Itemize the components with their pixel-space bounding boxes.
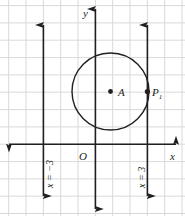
line-x-equals-3-label: x = 3 <box>136 167 147 189</box>
point-p1-subscript: 1 <box>159 93 163 101</box>
figure-background <box>0 0 185 216</box>
line-x-equals-minus-3-label: x = −3 <box>44 160 55 189</box>
x-axis-label: x <box>169 150 175 162</box>
origin-label: O <box>79 150 87 162</box>
y-axis-label: y <box>82 7 88 19</box>
point-p1-dot <box>145 89 150 94</box>
coordinate-geometry-figure: A P1 O y x x = −3 x = 3 <box>0 0 185 216</box>
point-a-dot <box>108 89 113 94</box>
point-a-label: A <box>117 86 125 98</box>
